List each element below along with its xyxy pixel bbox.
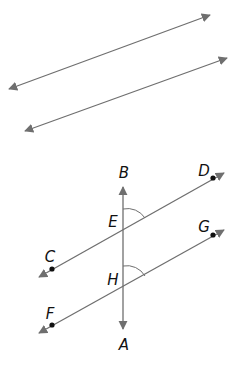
label-a: A — [118, 336, 129, 354]
label-d: D — [198, 162, 210, 180]
transversal-figure: B D E G C H F A — [39, 162, 224, 354]
point-g — [210, 232, 215, 237]
angle-arc-ehg — [123, 266, 145, 276]
label-g: G — [198, 218, 210, 236]
parallel-line-1 — [9, 15, 210, 89]
parallel-lines-top — [9, 15, 227, 131]
point-d — [210, 175, 215, 180]
label-b: B — [119, 164, 129, 182]
label-c: C — [45, 248, 56, 266]
parallel-line-2 — [25, 58, 227, 131]
label-e: E — [108, 213, 118, 231]
line-cd — [39, 173, 224, 277]
angle-arc-bed — [123, 209, 145, 218]
geometry-diagram: B D E G C H F A — [0, 0, 240, 368]
point-f — [49, 322, 54, 327]
line-fg — [39, 230, 224, 333]
label-h: H — [107, 271, 118, 289]
point-c — [49, 266, 54, 271]
label-f: F — [46, 305, 55, 323]
